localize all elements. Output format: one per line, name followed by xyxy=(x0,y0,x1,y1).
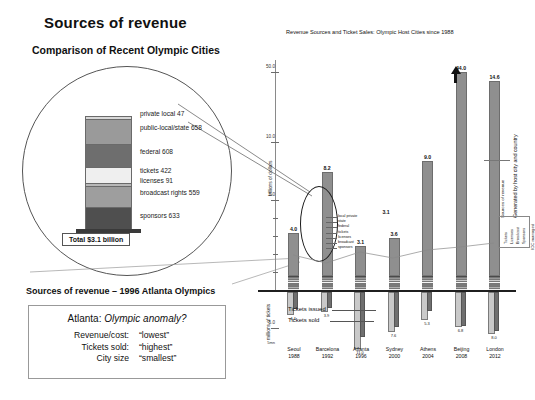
anomaly-row-value: “smallest” xyxy=(129,353,176,365)
exploded-segment-label: licenses 91 xyxy=(140,177,173,184)
x-axis-tick: Sydney2000 xyxy=(378,346,412,359)
y-tick-minor xyxy=(273,272,278,273)
revenue-bar-value: 14.6 xyxy=(482,74,508,80)
revenue-source-segment xyxy=(389,288,400,290)
revenue-source-segment xyxy=(489,279,500,281)
y-tick xyxy=(271,200,279,201)
y-tick-label: 50.0 xyxy=(253,64,275,69)
exploded-segment xyxy=(86,145,131,168)
exploded-segment-label: federal 608 xyxy=(140,148,173,155)
x-axis-tick: Atlanta1996 xyxy=(344,346,378,359)
revenue-source-segment xyxy=(288,277,299,279)
revenue-source-segment xyxy=(288,281,299,283)
total-revenue-badge: Total $3.1 billion xyxy=(62,233,130,246)
revenue-source-segment xyxy=(422,286,433,288)
revenue-source-segment xyxy=(489,281,500,283)
revenue-source-segment xyxy=(322,288,333,290)
revenue-source-segment xyxy=(389,275,400,277)
revenue-source-segment xyxy=(288,288,299,290)
key-tickets-sold: Tickets sold xyxy=(288,317,319,323)
tickets-value-label: 3.9 xyxy=(318,313,336,318)
left-subtitle: Comparison of Recent Olympic Cities xyxy=(32,44,220,56)
revenue-source-segment xyxy=(322,286,333,288)
tickets-sold-bar xyxy=(494,292,499,331)
legend-item-tickets: Tickets xyxy=(504,232,508,244)
tickets-value-label: 8.0 xyxy=(485,335,503,340)
page-title: Sources of revenue xyxy=(44,14,187,31)
revenue-source-segment xyxy=(322,283,333,285)
tickets-value-label: 5.3 xyxy=(418,321,436,326)
tickets-sold-bar xyxy=(394,292,399,327)
revenue-source-segment xyxy=(456,279,467,281)
revenue-source-segment xyxy=(456,283,467,285)
atlanta-source-annotation: tickets xyxy=(338,230,348,234)
revenue-source-segment xyxy=(489,286,500,288)
revenue-source-segment xyxy=(422,275,433,277)
revenue-source-segment xyxy=(389,281,400,283)
revenue-source-segment xyxy=(389,286,400,288)
x-label-year: 1992 xyxy=(311,353,345,360)
anomaly-row: City size“smallest” xyxy=(55,353,225,365)
exploded-segment-label: broadcast rights 559 xyxy=(140,189,200,196)
revenue-source-segment xyxy=(355,275,366,277)
anomaly-row: Revenue/cost:“lowest” xyxy=(55,330,225,342)
revenue-source-segment xyxy=(422,283,433,285)
chart-legend: Tickets Licenses Broadcast Sponsors xyxy=(498,216,530,248)
y-axis-title: billions of dollars xyxy=(268,161,273,196)
x-label-year: 2004 xyxy=(411,353,445,360)
atlanta-source-annotation: local private xyxy=(338,214,357,218)
anomaly-row: Tickets sold:“highest” xyxy=(55,342,225,354)
revenue-source-segment xyxy=(422,281,433,283)
revenue-bar xyxy=(456,72,467,290)
x-axis-tick: Seoul1988 xyxy=(277,346,311,359)
revenue-source-segment xyxy=(355,288,366,290)
atlanta-total-value: 3.1 xyxy=(373,209,399,215)
exploded-segment xyxy=(86,120,131,145)
legend-item-sponsors: Sponsors xyxy=(522,228,526,244)
tickets-value-label: 6.8 xyxy=(452,328,470,333)
x-label-year: 2008 xyxy=(445,353,479,360)
revenue-bar xyxy=(422,161,433,290)
revenue-source-segment xyxy=(288,286,299,288)
tickets-sold-bar xyxy=(461,292,466,326)
beijing-arrow-stem xyxy=(454,73,457,83)
atlanta-source-annotation: state xyxy=(338,219,346,223)
atlanta-annotation-line xyxy=(326,222,337,223)
anomaly-row-key: Revenue/cost: xyxy=(55,330,129,342)
y-tick xyxy=(271,328,279,329)
atlanta-annotation-line xyxy=(326,248,337,249)
revenue-source-segment xyxy=(489,288,500,290)
atlanta-annotation-line xyxy=(326,227,337,228)
revenue-source-segment xyxy=(288,283,299,285)
revenue-source-segment xyxy=(422,277,433,279)
x-label-year: 1996 xyxy=(344,353,378,360)
y-tick xyxy=(271,72,279,73)
atlanta-source-annotation: licenses xyxy=(338,235,351,239)
tickets-sold-bar xyxy=(327,292,332,308)
anomaly-question: Olympic anomaly? xyxy=(104,313,186,324)
revenue-source-segment xyxy=(355,279,366,281)
y-axis-line xyxy=(275,60,276,290)
revenue-source-segment xyxy=(288,275,299,277)
x-axis-tick: Barcelona1992 xyxy=(311,346,345,359)
atlanta-annotation-line xyxy=(326,243,337,244)
exploded-segment-label: sponsors 633 xyxy=(140,212,180,219)
revenue-source-segment xyxy=(456,286,467,288)
key-tickets-issued: Tickets issued xyxy=(288,306,326,312)
atlanta-source-annotation: broadcast xyxy=(338,240,354,244)
x-label-year: 2012 xyxy=(478,353,512,360)
atlanta-source-annotation: federal xyxy=(338,224,349,228)
tickets-sold-bar xyxy=(360,292,365,337)
anomaly-city: Atlanta: xyxy=(68,313,102,324)
revenue-source-segment xyxy=(389,283,400,285)
annotation-rule xyxy=(484,160,510,161)
revenue-source-segment xyxy=(456,277,467,279)
x-label-year: 1988 xyxy=(277,353,311,360)
key-line-sold xyxy=(330,321,374,322)
tickets-value-label: 7.6 xyxy=(385,333,403,338)
revenue-source-segment xyxy=(389,277,400,279)
legend-item-broadcast: Broadcast xyxy=(516,227,520,244)
x-label-year: 2000 xyxy=(378,353,412,360)
revenue-source-segment xyxy=(322,279,333,281)
annotation-sources-of-revenue: Sources of revenue xyxy=(500,180,505,218)
